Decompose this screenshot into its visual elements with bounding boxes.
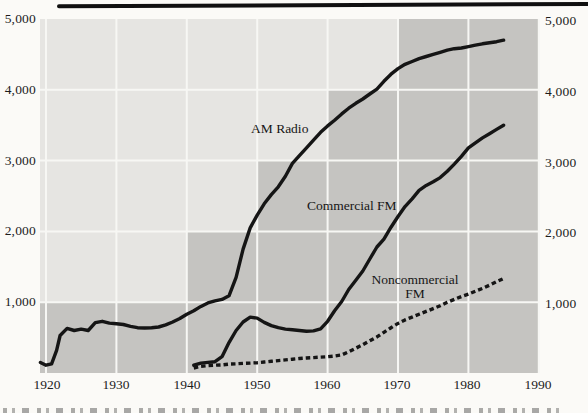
noncommercial-fm-label-line2: FM <box>369 287 461 301</box>
y-tick-label: 3,000 <box>545 155 585 171</box>
y-tick-label: 4,000 <box>545 84 585 100</box>
y-tick-label: 5,000 <box>545 13 585 29</box>
commercial-fm-curve-label: Commercial FM <box>307 199 397 213</box>
y-tick-label: 5,000 <box>0 11 36 27</box>
x-tick-label: 1920 <box>34 377 61 393</box>
x-tick-label: 1980 <box>454 377 481 393</box>
y-tick-label: 1,000 <box>0 294 36 310</box>
y-tick-label: 4,000 <box>0 82 36 98</box>
y-tick-label: 2,000 <box>0 223 36 239</box>
background-step-block <box>40 302 539 373</box>
noncommercial-fm-curve-label: Noncommercial FM <box>369 273 461 301</box>
noncommercial-fm-label-line1: Noncommercial <box>369 273 461 287</box>
x-tick-label: 1950 <box>244 377 271 393</box>
x-tick-label: 1990 <box>525 377 552 393</box>
am-radio-curve-label: AM Radio <box>251 122 308 136</box>
y-tick-label: 2,000 <box>545 225 585 241</box>
x-tick-label: 1960 <box>314 377 341 393</box>
x-tick-label: 1940 <box>174 377 201 393</box>
x-tick-label: 1970 <box>384 377 411 393</box>
y-tick-label: 3,000 <box>0 153 36 169</box>
cropped-caption-fragment <box>3 408 563 413</box>
scanned-figure-page: { "figure": { "description": "Scanned te… <box>0 0 588 413</box>
y-tick-label: 1,000 <box>545 296 585 312</box>
x-tick-label: 1930 <box>103 377 130 393</box>
chart-plot-area <box>0 0 588 413</box>
